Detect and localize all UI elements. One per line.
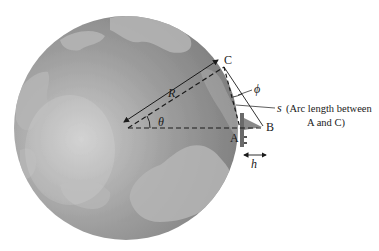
label-height: h <box>251 157 257 171</box>
phi-arc <box>233 94 242 97</box>
earth-horizon-diagram: C A B R θ ϕ s (Arc length between A and … <box>0 0 379 251</box>
label-point-a: A <box>230 131 239 145</box>
label-arc-s: s <box>277 101 282 115</box>
label-phi: ϕ <box>254 82 260 96</box>
arc-leader <box>236 105 275 108</box>
label-point-b: B <box>266 120 274 134</box>
arc-note-line1: (Arc length between <box>286 103 372 115</box>
label-point-c: C <box>224 53 232 67</box>
label-radius: R <box>167 86 176 100</box>
tower <box>240 113 262 147</box>
arc-note-line2: A and C) <box>307 117 345 129</box>
label-theta: θ <box>158 115 164 129</box>
